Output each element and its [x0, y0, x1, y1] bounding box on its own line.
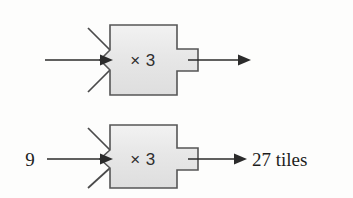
funnel-lower-line-top — [88, 70, 110, 92]
diagram-canvas: × 3 9 27 tiles × 3 — [0, 0, 353, 198]
funnel-upper-line-bottom — [88, 128, 110, 150]
input-arrow-bottom — [47, 154, 113, 165]
output-label-bottom: 27 tiles — [252, 149, 307, 170]
input-label-bottom: 9 — [25, 149, 35, 170]
machine-bottom: 9 27 tiles × 3 — [25, 125, 307, 188]
machine-top: × 3 — [45, 25, 251, 95]
funnel-lower-line-bottom — [88, 168, 110, 188]
input-arrow-top — [45, 55, 113, 66]
operation-label-bottom: × 3 — [130, 150, 156, 169]
operation-label-top: × 3 — [130, 51, 156, 70]
function-machine-diagram: × 3 9 27 tiles × 3 — [0, 0, 353, 198]
funnel-upper-line-top — [88, 28, 110, 50]
